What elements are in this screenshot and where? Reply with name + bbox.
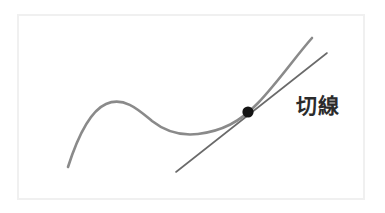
figure-canvas: 切線 xyxy=(0,0,385,213)
tangency-point-dot xyxy=(242,106,253,117)
tangent-label: 切線 xyxy=(296,94,340,118)
tangent-line-figure: 切線 xyxy=(0,0,385,213)
